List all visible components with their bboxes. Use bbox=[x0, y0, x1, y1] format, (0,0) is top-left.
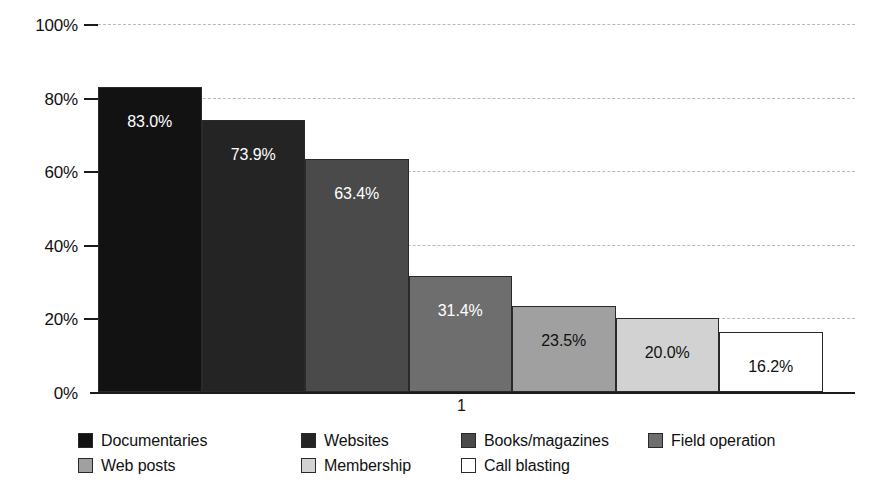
legend-item-documentaries[interactable]: Documentaries bbox=[78, 428, 207, 453]
bar-value-label: 23.5% bbox=[513, 333, 615, 349]
legend-swatch-icon bbox=[78, 458, 93, 473]
bar-books-magazines[interactable]: 63.4% bbox=[305, 159, 409, 392]
bar-value-label: 83.0% bbox=[99, 114, 201, 130]
bar-value-label: 20.0% bbox=[617, 345, 719, 361]
bar-value-label: 31.4% bbox=[410, 303, 512, 319]
legend-item-websites[interactable]: Websites bbox=[301, 428, 389, 453]
legend-label: Membership bbox=[324, 458, 411, 474]
x-axis-line bbox=[90, 392, 855, 394]
legend-label: Web posts bbox=[101, 458, 175, 474]
bar-call-blasting[interactable]: 16.2% bbox=[719, 332, 823, 392]
legend-label: Field operation bbox=[671, 433, 775, 449]
legend-row: Web postsMembershipCall blasting bbox=[78, 453, 838, 478]
bar-value-label: 63.4% bbox=[306, 186, 408, 202]
legend-label: Websites bbox=[324, 433, 389, 449]
bar-value-label: 73.9% bbox=[203, 147, 305, 163]
legend-label: Books/magazines bbox=[484, 433, 609, 449]
bars-layer: 83.0%73.9%63.4%31.4%23.5%20.0%16.2% bbox=[0, 0, 869, 501]
legend-swatch-icon bbox=[461, 433, 476, 448]
legend-row: DocumentariesWebsitesBooks/magazinesFiel… bbox=[78, 428, 838, 453]
bar-documentaries[interactable]: 83.0% bbox=[98, 87, 202, 392]
legend-swatch-icon bbox=[648, 433, 663, 448]
bar-value-label: 16.2% bbox=[720, 359, 822, 375]
bar-membership[interactable]: 20.0% bbox=[616, 318, 720, 392]
chart-legend: DocumentariesWebsitesBooks/magazinesFiel… bbox=[78, 428, 838, 478]
legend-label: Call blasting bbox=[484, 458, 570, 474]
legend-item-call-blasting[interactable]: Call blasting bbox=[461, 453, 570, 478]
legend-swatch-icon bbox=[301, 433, 316, 448]
legend-item-web-posts[interactable]: Web posts bbox=[78, 453, 175, 478]
legend-item-membership[interactable]: Membership bbox=[301, 453, 411, 478]
legend-item-field-operation[interactable]: Field operation bbox=[648, 428, 775, 453]
legend-swatch-icon bbox=[461, 458, 476, 473]
bar-chart: 100% 80% 60% 40% 20% 0% 83.0%73.9%63.4%3… bbox=[0, 0, 869, 501]
legend-swatch-icon bbox=[301, 458, 316, 473]
bar-web-posts[interactable]: 23.5% bbox=[512, 306, 616, 392]
bar-websites[interactable]: 73.9% bbox=[202, 120, 306, 392]
legend-swatch-icon bbox=[78, 433, 93, 448]
x-tick-label-1: 1 bbox=[410, 398, 513, 414]
bar-field-operation[interactable]: 31.4% bbox=[409, 276, 513, 392]
legend-item-books-magazines[interactable]: Books/magazines bbox=[461, 428, 609, 453]
legend-label: Documentaries bbox=[101, 433, 207, 449]
